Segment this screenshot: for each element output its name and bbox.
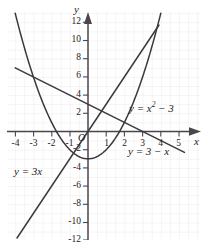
y-tick-label-8: 8 (57, 53, 81, 63)
y-tick-label-neg4: -4 (55, 163, 81, 173)
y-tick-label-neg6: -6 (55, 181, 81, 191)
y-tick-label-12: 12 (57, 17, 81, 27)
annotation-line-3-minus-x: y = 3 − x (128, 146, 169, 157)
y-tick-label-6: 6 (57, 71, 81, 81)
y-tick-label-neg8: -8 (55, 199, 81, 209)
annotation-parabola-lhs: y = x (129, 102, 152, 114)
x-tick-label-1: 1 (98, 139, 115, 149)
y-tick-label-neg10: -10 (52, 217, 81, 227)
x-tick-label-5: 5 (170, 139, 187, 149)
x-axis-label: x (194, 136, 199, 147)
y-axis-label: y (74, 4, 79, 15)
y-tick-label-10: 10 (57, 35, 81, 45)
annotation-parabola: y = x2 − 3 (129, 101, 174, 114)
annotation-line-3x: y = 3x (14, 166, 42, 177)
x-tick-label-neg1: -1 (58, 139, 81, 149)
y-tick-label-4: 4 (57, 90, 81, 100)
annotation-parabola-rhs: − 3 (158, 102, 174, 114)
y-tick-label-neg12: -12 (52, 235, 81, 245)
y-tick-label-2: 2 (57, 108, 81, 118)
annotation-parabola-exponent: 2 (152, 100, 156, 109)
grid-background (7, 12, 201, 239)
